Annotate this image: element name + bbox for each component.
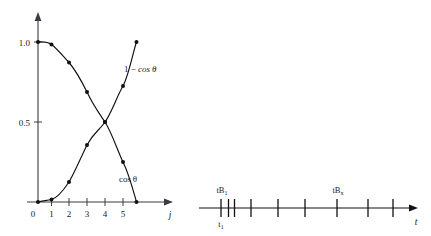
time-label-t1: t1 bbox=[218, 219, 223, 230]
figure-container: 1.0 0.5 0 1 2 3 4 5 j 1 − cos θ cos θ bbox=[0, 0, 431, 236]
time-axis-arrowhead bbox=[409, 205, 418, 212]
time-label-tb1: tB1 bbox=[216, 185, 227, 196]
time-label-tb1-sub: 1 bbox=[225, 190, 228, 196]
time-label-tbx: tBx bbox=[332, 185, 343, 196]
time-axis-label-t: t bbox=[415, 217, 418, 227]
time-label-t1-sub: 1 bbox=[221, 224, 224, 230]
time-axis-panel: tB1 t1 tBx t bbox=[0, 0, 431, 236]
time-label-tbx-sub: x bbox=[341, 190, 344, 196]
